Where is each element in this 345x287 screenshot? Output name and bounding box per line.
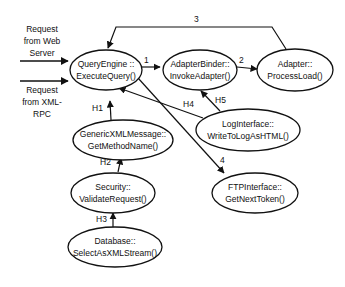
node-adapter: Adapter:: ProcessLoad() — [257, 49, 333, 91]
edge-label-3: 3 — [194, 14, 199, 24]
svg-text:RPC: RPC — [33, 109, 51, 119]
svg-text:ExecuteQuery(): ExecuteQuery() — [76, 71, 136, 81]
svg-text:ValidateRequest(): ValidateRequest() — [79, 194, 147, 204]
svg-text:GenericXMLMessage::: GenericXMLMessage:: — [80, 129, 166, 139]
edge-label-h3: H3 — [96, 214, 107, 224]
edge-label-h1: H1 — [92, 103, 103, 113]
node-query-engine: QueryEngine :: ExecuteQuery() — [70, 50, 142, 90]
svg-text:QueryEngine ::: QueryEngine :: — [78, 59, 135, 69]
svg-text:from Web: from Web — [24, 36, 61, 46]
svg-text:LogInterface::: LogInterface:: — [222, 119, 274, 129]
node-ftp-interface: FTPInterface:: GetNextToken() — [212, 173, 298, 213]
svg-text:SelectAsXMLStream(): SelectAsXMLStream() — [73, 248, 157, 258]
svg-text:Database::: Database:: — [94, 236, 135, 246]
svg-text:Adapter::: Adapter:: — [278, 59, 313, 69]
svg-text:ProcessLoad(): ProcessLoad() — [267, 71, 322, 81]
svg-text:Request: Request — [26, 24, 58, 34]
call-graph-diagram: Request from Web Server Request from XML… — [0, 0, 345, 287]
svg-text:GetNextToken(): GetNextToken() — [225, 194, 285, 204]
svg-text:WriteToLogAsHTML(): WriteToLogAsHTML() — [207, 131, 289, 141]
svg-text:Security::: Security:: — [95, 182, 130, 192]
edge-label-2: 2 — [239, 55, 244, 65]
input-label-xml-rpc: Request from XML- RPC — [22, 85, 62, 119]
svg-text:Server: Server — [29, 48, 54, 58]
edge-2 — [237, 67, 257, 69]
svg-text:Request: Request — [26, 85, 58, 95]
node-log-interface: LogInterface:: WriteToLogAsHTML() — [196, 109, 300, 151]
svg-text:from XML-: from XML- — [22, 97, 62, 107]
edge-label-h5: H5 — [215, 95, 226, 105]
edge-3 — [108, 27, 286, 49]
svg-text:GetMethodName(): GetMethodName() — [88, 141, 159, 151]
edge-label-4: 4 — [220, 155, 225, 165]
edge-h1 — [110, 101, 111, 120]
svg-text:AdapterBinder::: AdapterBinder:: — [170, 59, 229, 69]
node-security: Security:: ValidateRequest() — [71, 173, 155, 213]
node-database: Database:: SelectAsXMLStream() — [68, 227, 162, 267]
edge-label-1: 1 — [144, 55, 149, 65]
edge-label-h4: H4 — [183, 99, 194, 109]
node-adapter-binder: AdapterBinder:: InvokeAdapter() — [163, 50, 237, 90]
node-generic-xml-message: GenericXMLMessage:: GetMethodName() — [73, 120, 173, 160]
input-label-web-server: Request from Web Server — [24, 24, 61, 58]
svg-text:FTPInterface::: FTPInterface:: — [228, 182, 282, 192]
svg-text:InvokeAdapter(): InvokeAdapter() — [170, 71, 231, 81]
